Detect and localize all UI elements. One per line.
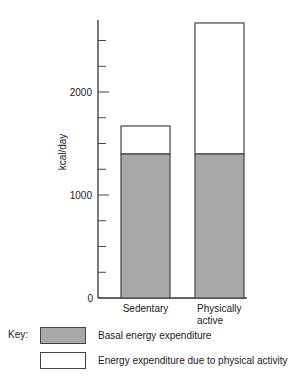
legend-item-basal: Basal energy expenditure [40,326,211,344]
legend: Key: Basal energy expenditure Energy exp… [0,322,296,382]
y-axis-title: kcal/day [57,134,68,171]
bar-segment-activity [195,23,244,154]
bar-segment-basal [195,154,244,298]
x-category-label: Sedentary [123,303,169,314]
bar-segment-activity [121,126,170,154]
y-tick-label: 0 [87,293,93,304]
legend-item-activity: Energy expenditure due to physical activ… [40,351,288,369]
x-category-label: Physically [197,303,241,314]
legend-swatch-basal [40,327,86,344]
legend-label-activity: Energy expenditure due to physical activ… [98,355,288,366]
legend-swatch-activity [40,352,86,369]
y-tick-label: 2000 [70,87,93,98]
legend-key-label: Key: [8,329,28,340]
bar-segment-basal [121,154,170,298]
legend-label-basal: Basal energy expenditure [98,330,211,341]
bars [121,23,244,298]
y-tick-label: 1000 [70,190,93,201]
